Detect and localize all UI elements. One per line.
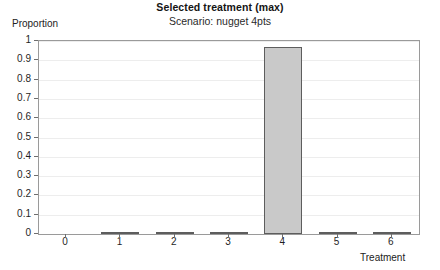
x-tick-label: 4: [267, 237, 297, 247]
bars-layer: [39, 41, 419, 234]
x-tick-label: 2: [159, 237, 189, 247]
y-tick-label: 0.4: [0, 151, 31, 161]
x-tick-label: 1: [104, 237, 134, 247]
x-tick-mark: [391, 234, 392, 238]
x-tick-mark: [65, 234, 66, 238]
y-tick-label: 0.9: [0, 54, 31, 64]
chart-figure: Selected treatment (max) Scenario: nugge…: [0, 0, 440, 270]
bar: [101, 232, 139, 234]
x-tick-label: 0: [50, 237, 80, 247]
bar: [210, 232, 248, 234]
bar: [264, 47, 302, 234]
x-tick-label: 5: [322, 237, 352, 247]
y-tick-label: 0.1: [0, 209, 31, 219]
y-tick-label: 0.8: [0, 74, 31, 84]
x-tick-mark: [228, 234, 229, 238]
y-tick-label: 0.5: [0, 132, 31, 142]
y-tick-label: 0: [0, 228, 31, 238]
bar: [319, 232, 357, 234]
bar: [156, 232, 194, 234]
x-tick-mark: [337, 234, 338, 238]
bar: [373, 232, 411, 234]
y-tick-label: 0.7: [0, 93, 31, 103]
x-tick-label: 6: [376, 237, 406, 247]
y-tick-label: 0.3: [0, 170, 31, 180]
x-tick-mark: [282, 234, 283, 238]
y-axis-label: Proportion: [12, 18, 58, 29]
x-axis-label: Treatment: [360, 252, 405, 263]
chart-title: Selected treatment (max): [0, 1, 440, 13]
chart-subtitle: Scenario: nugget 4pts: [0, 15, 440, 27]
x-tick-mark: [119, 234, 120, 238]
x-tick-label: 3: [213, 237, 243, 247]
x-tick-mark: [174, 234, 175, 238]
y-tick-label: 0.2: [0, 189, 31, 199]
y-tick-label: 0.6: [0, 112, 31, 122]
y-tick-label: 1: [0, 35, 31, 45]
plot-area: [38, 40, 420, 235]
